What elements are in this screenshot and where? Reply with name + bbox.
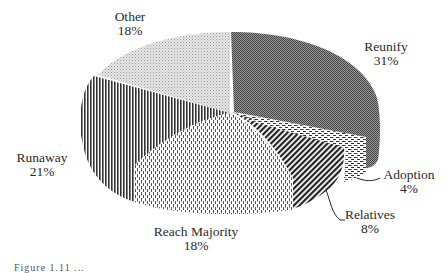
label-reach-majority: Reach Majority 18%: [146, 225, 246, 253]
label-relatives-pct: 8%: [340, 222, 400, 236]
label-runaway-pct: 21%: [14, 165, 70, 179]
label-other-name: Other: [108, 10, 152, 24]
label-relatives: Relatives 8%: [340, 208, 400, 236]
label-reunify-name: Reunify: [356, 40, 416, 54]
figure-caption: Figure 1.11 ...: [14, 262, 85, 273]
label-adoption-pct: 4%: [378, 182, 440, 196]
label-relatives-name: Relatives: [340, 208, 400, 222]
label-other-pct: 18%: [108, 24, 152, 38]
leader-line-adoption: [357, 178, 380, 181]
label-reach-majority-pct: 18%: [146, 239, 246, 253]
label-other: Other 18%: [108, 10, 152, 38]
label-adoption: Adoption 4%: [378, 168, 440, 196]
label-adoption-name: Adoption: [378, 168, 440, 182]
label-reunify: Reunify 31%: [356, 40, 416, 68]
label-runaway-name: Runaway: [14, 151, 70, 165]
label-runaway: Runaway 21%: [14, 151, 70, 179]
label-reunify-pct: 31%: [356, 54, 416, 68]
label-reach-majority-name: Reach Majority: [146, 225, 246, 239]
